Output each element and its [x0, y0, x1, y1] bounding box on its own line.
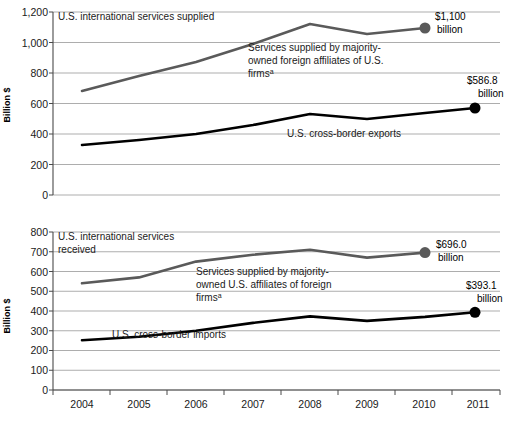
series-label-cross-border-imports: U.S. cross-border imports — [112, 329, 226, 340]
series-endpoint-cross-border-imports — [470, 307, 481, 318]
y-tick-1000-top: 1,000 — [22, 37, 48, 49]
series-label-foreign-affiliates-line2: owned foreign affiliates of U.S. — [248, 55, 383, 66]
x-tick-label-2011: 2011 — [467, 398, 490, 410]
y-tick-600-top: 600 — [30, 98, 48, 110]
series-line-cross-border-exports — [82, 108, 475, 145]
y-axis-title-bottom: Billion $ — [2, 298, 12, 333]
y-tick-200-top: 200 — [30, 159, 48, 171]
series-endpoint-cross-border-exports — [470, 103, 481, 114]
chart-received: Billion $ 800 700 600 500 400 300 200 10… — [0, 221, 512, 442]
callout-value-us-affiliates: $696.0 — [436, 239, 467, 250]
y-tick-400-top: 400 — [30, 128, 48, 140]
x-tick-label-2005: 2005 — [127, 398, 151, 410]
callout-unit-foreign-affiliates: billion — [437, 24, 463, 35]
y-tick-800-top: 800 — [30, 67, 48, 79]
chart-title-bottom-line1: U.S. international services — [58, 231, 174, 242]
series-endpoint-foreign-affiliates — [420, 23, 431, 34]
callout-unit-cross-border-imports: billion — [477, 293, 503, 304]
series-endpoint-us-affiliates-foreign-firms — [420, 247, 431, 258]
x-tick-label-2004: 2004 — [70, 398, 94, 410]
y-tick-100-bottom: 100 — [30, 364, 48, 376]
chart-title-top-line1: U.S. international services supplied — [58, 11, 214, 22]
callout-unit-us-affiliates: billion — [438, 252, 464, 263]
y-tick-600-bottom: 600 — [30, 266, 48, 278]
callout-value-foreign-affiliates: $1,100 — [435, 11, 466, 22]
y-tick-200-bottom: 200 — [30, 344, 48, 356]
series-label-us-affiliates-line1: Services supplied by majority- — [196, 266, 329, 277]
x-tick-label-2009: 2009 — [355, 398, 379, 410]
series-label-us-affiliates-line2: owned U.S. affiliates of foreign — [196, 279, 331, 290]
series-label-foreign-affiliates-line3: firmsa — [248, 68, 274, 79]
y-axis-title-top: Billion $ — [2, 87, 12, 122]
x-tick-label-2006: 2006 — [184, 398, 208, 410]
chart-supplied-svg: Billion $ 1,200 1,000 800 600 400 200 0 … — [0, 0, 512, 221]
callout-value-cross-border-exports: $586.8 — [467, 75, 498, 86]
x-tick-label-2010: 2010 — [412, 398, 436, 410]
y-tick-500-bottom: 500 — [30, 285, 48, 297]
y-tick-300-bottom: 300 — [30, 325, 48, 337]
x-tick-label-2007: 2007 — [241, 398, 265, 410]
callout-unit-cross-border-exports: billion — [478, 88, 504, 99]
series-label-us-affiliates-line3: firmsa — [196, 292, 222, 303]
chart-title-bottom-line2: received — [58, 244, 96, 255]
y-tick-700-bottom: 700 — [30, 246, 48, 258]
series-label-cross-border-exports: U.S. cross-border exports — [287, 128, 401, 139]
callout-value-cross-border-imports: $393.1 — [466, 280, 497, 291]
y-tick-800-bottom: 800 — [30, 226, 48, 238]
y-tick-400-bottom: 400 — [30, 305, 48, 317]
y-tick-0-top: 0 — [42, 189, 48, 201]
y-tick-0-bottom: 0 — [42, 384, 48, 396]
chart-supplied: Billion $ 1,200 1,000 800 600 400 200 0 … — [0, 0, 512, 221]
series-label-foreign-affiliates-line1: Services supplied by majority- — [248, 42, 381, 53]
x-tick-label-2008: 2008 — [298, 398, 322, 410]
chart-received-svg: Billion $ 800 700 600 500 400 300 200 10… — [0, 221, 512, 442]
y-tick-1200-top: 1,200 — [22, 6, 48, 18]
